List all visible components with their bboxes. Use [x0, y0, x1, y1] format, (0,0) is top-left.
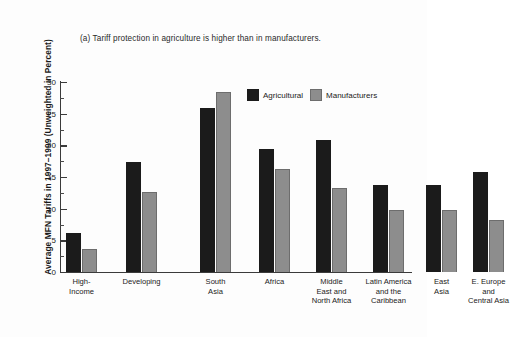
- x-axis-label-line: Asia: [179, 287, 253, 297]
- bar-agricultural: [473, 172, 488, 272]
- x-axis-label-line: and: [452, 287, 514, 297]
- bar-manufacturers: [389, 210, 404, 272]
- y-tick-label: 30: [47, 78, 56, 87]
- bar-manufacturers: [332, 188, 347, 272]
- bar-manufacturers: [142, 192, 157, 272]
- x-axis-label: E. EuropeandCentral Asia: [452, 277, 514, 306]
- y-tick-mark: [60, 272, 67, 273]
- x-axis-label: Developing: [105, 277, 179, 287]
- bar-agricultural: [316, 140, 331, 272]
- bar-manufacturers: [489, 220, 504, 272]
- bar-agricultural: [259, 149, 274, 273]
- x-axis-label-line: Income: [45, 287, 119, 297]
- bar-agricultural: [200, 108, 215, 272]
- bar-manufacturers: [275, 169, 290, 272]
- bar-manufacturers: [82, 249, 97, 272]
- bar-agricultural: [126, 162, 141, 272]
- x-axis-label-line: E. Europe: [452, 277, 514, 287]
- x-axis-category-labels: High-IncomeDevelopingSouthAsiaAfricaMidd…: [60, 277, 420, 332]
- plot-area: 051015202530: [60, 82, 412, 272]
- bar-agricultural: [373, 185, 388, 272]
- x-axis-label-line: Central Asia: [452, 296, 514, 306]
- bar-agricultural: [66, 233, 81, 272]
- bar-manufacturers: [216, 92, 231, 272]
- y-tick-label: 0: [52, 268, 56, 277]
- y-tick-label: 5: [52, 236, 56, 245]
- y-tick-label: 10: [47, 204, 56, 213]
- x-axis-label-line: Developing: [105, 277, 179, 287]
- x-axis-label-line: Caribbean: [352, 296, 426, 306]
- y-tick-label: 15: [47, 173, 56, 182]
- chart-title: (a) Tariff protection in agriculture is …: [80, 33, 410, 44]
- y-tick-label: 25: [47, 109, 56, 118]
- y-tick-label: 20: [47, 141, 56, 150]
- bar-manufacturers: [442, 210, 457, 272]
- bar-agricultural: [426, 185, 441, 272]
- bars-layer: [60, 82, 412, 272]
